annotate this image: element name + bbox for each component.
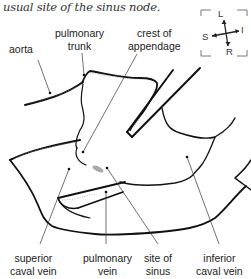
label-pulmonary-trunk: pulmonary trunk: [55, 27, 104, 53]
label-crest-of-appendage: crest of appendage: [128, 27, 181, 53]
heart-diagram: [0, 0, 251, 279]
label-aorta: aorta: [9, 43, 33, 56]
label-inferior-caval-vein: inferior caval vein: [196, 252, 243, 278]
label-inferior-line1: inferior: [196, 252, 243, 265]
label-superior-line1: superior: [10, 252, 57, 265]
label-sinus-line1: site of: [144, 252, 172, 265]
label-sinus-line2: sinus: [144, 265, 172, 278]
label-crest-line2: appendage: [128, 40, 181, 53]
label-aorta-text: aorta: [9, 43, 33, 55]
label-crest-line1: crest of: [128, 27, 181, 40]
label-site-of-sinus: site of sinus: [144, 252, 172, 278]
label-pulmonary-vein-line1: pulmonary: [83, 252, 132, 265]
label-superior-caval-vein: superior caval vein: [10, 252, 57, 278]
sinus-node-marker: [92, 164, 105, 174]
label-pulmonary-trunk-line2: trunk: [55, 40, 104, 53]
label-pulmonary-vein-line2: vein: [83, 265, 132, 278]
label-pulmonary-vein: pulmonary vein: [83, 252, 132, 278]
label-pulmonary-trunk-line1: pulmonary: [55, 27, 104, 40]
label-inferior-line2: caval vein: [196, 265, 243, 278]
label-superior-line2: caval vein: [10, 265, 57, 278]
